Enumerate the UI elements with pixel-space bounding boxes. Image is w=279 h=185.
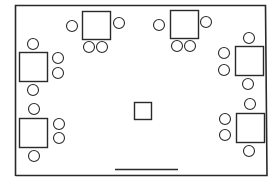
chair	[244, 146, 255, 157]
table-top-left	[83, 12, 111, 40]
table-right-lower	[237, 114, 265, 143]
floor-plan	[0, 0, 279, 185]
chair	[29, 104, 40, 115]
chair	[97, 42, 108, 53]
chair	[244, 33, 255, 44]
chair	[28, 85, 39, 96]
chair	[28, 39, 39, 50]
chair	[53, 68, 64, 79]
chair	[245, 99, 256, 110]
chair	[84, 42, 95, 53]
table-left-upper	[20, 53, 48, 82]
chair	[53, 53, 64, 64]
chair	[172, 41, 183, 52]
chair	[201, 17, 212, 28]
chair	[220, 114, 231, 125]
chair	[219, 48, 230, 59]
table-left-lower	[20, 119, 48, 148]
table-group-right-lower	[220, 99, 265, 157]
table-right-upper	[236, 47, 264, 76]
chair	[243, 79, 254, 90]
table-group-left-upper	[20, 39, 64, 96]
table-group-left-lower	[20, 104, 65, 162]
table-group-top-left	[67, 12, 125, 53]
chair	[29, 151, 40, 162]
table-group-right-upper	[219, 33, 264, 90]
chair	[67, 21, 78, 32]
chair	[54, 119, 65, 130]
chair	[154, 20, 165, 31]
center-square	[135, 103, 152, 120]
chair	[185, 41, 196, 52]
chair	[54, 133, 65, 144]
table-top-right	[171, 11, 199, 39]
room-walls	[16, 6, 268, 177]
table-group-top-right	[154, 11, 212, 52]
chair	[219, 65, 230, 76]
chair	[220, 130, 231, 141]
chair	[114, 18, 125, 29]
